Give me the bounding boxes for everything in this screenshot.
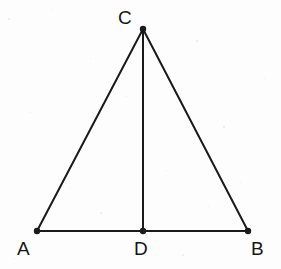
geometry-figure: C A D B xyxy=(0,0,281,269)
vertex-label-b: B xyxy=(251,239,264,258)
vertex-dot-d xyxy=(140,228,146,234)
vertex-label-d: D xyxy=(134,239,148,258)
left-segment-ac xyxy=(37,29,143,231)
right-segment-bc xyxy=(143,29,248,231)
vertex-dot-c xyxy=(140,26,146,32)
vertex-label-c: C xyxy=(118,8,132,27)
segments-group xyxy=(37,29,248,231)
vertex-dot-a xyxy=(34,228,40,234)
vertex-label-a: A xyxy=(17,239,30,258)
vertex-dot-b xyxy=(245,228,251,234)
triangle-diagram-svg xyxy=(0,0,281,269)
